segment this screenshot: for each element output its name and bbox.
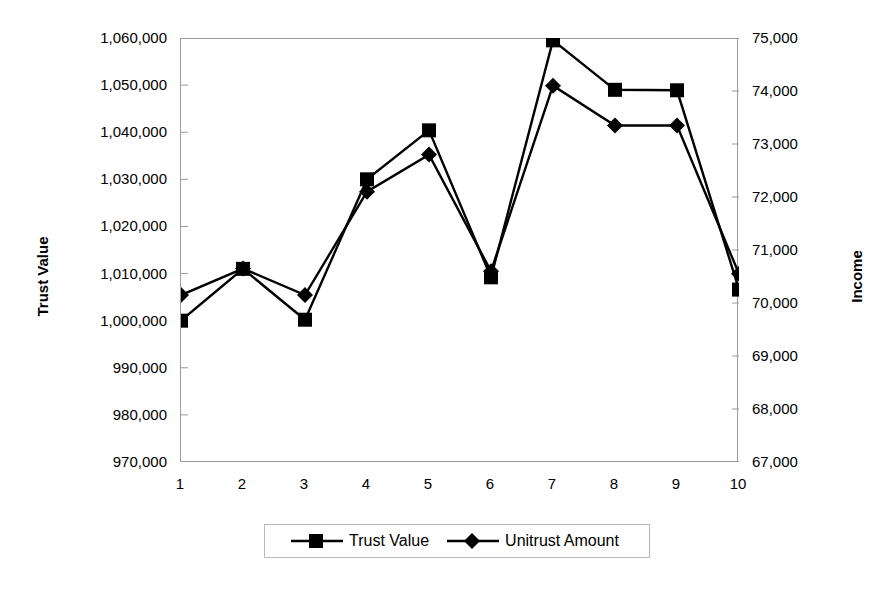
series-trust-value — [181, 38, 739, 328]
x-axis-tick-label: 10 — [718, 476, 758, 491]
y-axis-right-tick-label: 71,000 — [752, 242, 842, 257]
y-axis-right-tick-label: 74,000 — [752, 83, 842, 98]
square-marker-icon — [608, 83, 622, 97]
y-axis-left-tick-label: 1,000,000 — [62, 313, 167, 328]
y-axis-right-title: Income — [848, 217, 865, 337]
legend-item-trust-value: Trust Value — [291, 532, 433, 550]
x-axis-tick-label: 9 — [656, 476, 696, 491]
square-marker-icon — [732, 283, 739, 297]
y-axis-left-tick-label: 1,030,000 — [62, 171, 167, 186]
y-axis-left-tick-label: 980,000 — [62, 407, 167, 422]
x-axis-tick-label: 7 — [532, 476, 572, 491]
y-axis-left-tick-label: 1,050,000 — [62, 77, 167, 92]
y-axis-right-tick-label: 68,000 — [752, 401, 842, 416]
x-axis-tick-label: 8 — [594, 476, 634, 491]
square-marker-icon — [298, 313, 312, 327]
legend-item-unitrust-amount: Unitrust Amount — [447, 532, 623, 550]
diamond-marker-icon — [421, 147, 437, 163]
square-marker-icon — [181, 314, 188, 328]
y-axis-right-tick-label: 72,000 — [752, 189, 842, 204]
plot-area — [180, 38, 738, 462]
chart-container: Trust Value Income 970,000980,000990,000… — [0, 0, 894, 592]
diamond-marker-icon — [447, 533, 499, 549]
x-axis-tick-label: 4 — [346, 476, 386, 491]
diamond-marker-icon — [545, 78, 561, 94]
x-axis-tick-label: 1 — [160, 476, 200, 491]
y-axis-right-tick-label: 67,000 — [752, 454, 842, 469]
y-axis-left-tick-label: 1,060,000 — [62, 30, 167, 45]
x-axis-tick-label: 6 — [470, 476, 510, 491]
series-unitrust-amount — [181, 78, 739, 303]
y-axis-left-tick-label: 1,040,000 — [62, 124, 167, 139]
square-marker-icon — [422, 123, 436, 137]
legend-label-unitrust-amount: Unitrust Amount — [505, 532, 619, 550]
y-axis-left-tick-label: 1,010,000 — [62, 266, 167, 281]
y-axis-right-tick-label: 70,000 — [752, 295, 842, 310]
diamond-marker-icon — [669, 117, 685, 133]
y-axis-right-tick-label: 75,000 — [752, 30, 842, 45]
plot-svg — [181, 38, 739, 462]
series-line — [181, 86, 739, 295]
chart-legend: Trust Value Unitrust Amount — [264, 524, 650, 558]
y-axis-left-title: Trust Value — [34, 217, 51, 337]
square-marker-icon — [291, 533, 343, 549]
x-axis-tick-label: 3 — [284, 476, 324, 491]
y-axis-right-tick-label: 69,000 — [752, 348, 842, 363]
diamond-marker-icon — [297, 287, 313, 303]
diamond-marker-icon — [607, 117, 623, 133]
diamond-marker-icon — [181, 287, 189, 303]
y-axis-left-tick-label: 1,020,000 — [62, 218, 167, 233]
y-axis-left-tick-label: 970,000 — [62, 454, 167, 469]
square-marker-icon — [546, 38, 560, 47]
y-axis-right-tick-label: 73,000 — [752, 136, 842, 151]
x-axis-tick-label: 2 — [222, 476, 262, 491]
y-axis-left-tick-label: 990,000 — [62, 360, 167, 375]
square-marker-icon — [670, 83, 684, 97]
legend-label-trust-value: Trust Value — [349, 532, 429, 550]
x-axis-tick-label: 5 — [408, 476, 448, 491]
